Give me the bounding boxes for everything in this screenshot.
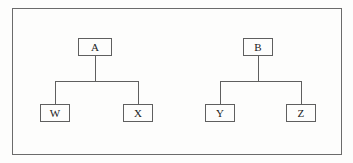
node-label-w: W <box>50 107 61 118</box>
node-label-y: Y <box>216 107 224 118</box>
node-label-z: Z <box>298 107 305 118</box>
node-b[interactable]: B <box>243 38 273 56</box>
diagram-canvas: AWXBYZ <box>0 0 353 163</box>
node-a[interactable]: A <box>78 38 112 56</box>
node-label-b: B <box>254 41 262 52</box>
diagram-frame <box>12 8 342 155</box>
node-label-a: A <box>91 41 99 52</box>
node-z[interactable]: Z <box>286 104 316 122</box>
node-y[interactable]: Y <box>205 104 235 122</box>
node-w[interactable]: W <box>40 104 70 122</box>
node-label-x: X <box>134 107 142 118</box>
node-x[interactable]: X <box>123 104 153 122</box>
